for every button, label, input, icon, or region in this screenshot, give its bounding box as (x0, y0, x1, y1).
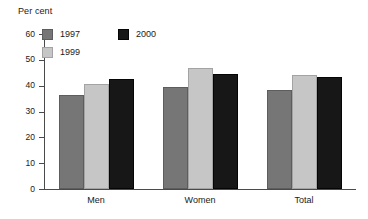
y-axis-tick-label: 30 (5, 107, 35, 116)
legend-item-1997: 1997 (42, 29, 80, 40)
x-axis-line (44, 189, 356, 190)
legend-swatch-2000-icon (118, 29, 129, 40)
y-axis-tick-label-wrap: 10 (4, 159, 35, 168)
y-axis-tick-label: 20 (5, 133, 35, 142)
bar-men-2000 (109, 79, 134, 189)
x-axis-label-women: Women (148, 195, 252, 205)
y-axis-tick-label: 60 (5, 30, 35, 39)
y-axis-tick-label: 50 (5, 55, 35, 64)
bar-total-2000 (317, 77, 342, 189)
legend-label-2000: 2000 (136, 30, 156, 39)
y-axis-title: Per cent (18, 6, 52, 16)
chart-legend: 1997 1999 2000 (42, 29, 202, 69)
legend-swatch-1999-icon (42, 47, 53, 58)
y-axis-tick-label-wrap: 40 (4, 81, 35, 90)
x-axis-label-total: Total (252, 195, 356, 205)
y-axis-tick-label-wrap: 50 (4, 55, 35, 64)
bar-chart: Per cent 0102030405060 MenWomenTotal 199… (0, 0, 368, 219)
y-axis-tick-label: 0 (5, 185, 35, 194)
y-axis-tick-label: 40 (5, 81, 35, 90)
y-axis-tick-label-wrap: 60 (4, 30, 35, 39)
legend-swatch-1997-icon (42, 29, 53, 40)
legend-label-1999: 1999 (60, 48, 80, 57)
bar-women-1997 (163, 87, 188, 189)
bar-total-1997 (267, 90, 292, 189)
bar-women-1999 (188, 68, 213, 189)
legend-label-1997: 1997 (60, 30, 80, 39)
bar-men-1997 (59, 95, 84, 189)
bar-men-1999 (84, 84, 109, 189)
y-axis-tick (39, 189, 44, 190)
legend-item-1999: 1999 (42, 47, 80, 58)
y-axis-tick-label: 10 (5, 159, 35, 168)
bar-women-2000 (213, 74, 238, 189)
legend-item-2000: 2000 (118, 29, 156, 40)
y-axis-tick-label-wrap: 0 (4, 185, 35, 194)
y-axis-tick-label-wrap: 30 (4, 107, 35, 116)
bar-total-1999 (292, 75, 317, 189)
x-axis-label-men: Men (44, 195, 148, 205)
y-axis-tick-label-wrap: 20 (4, 133, 35, 142)
